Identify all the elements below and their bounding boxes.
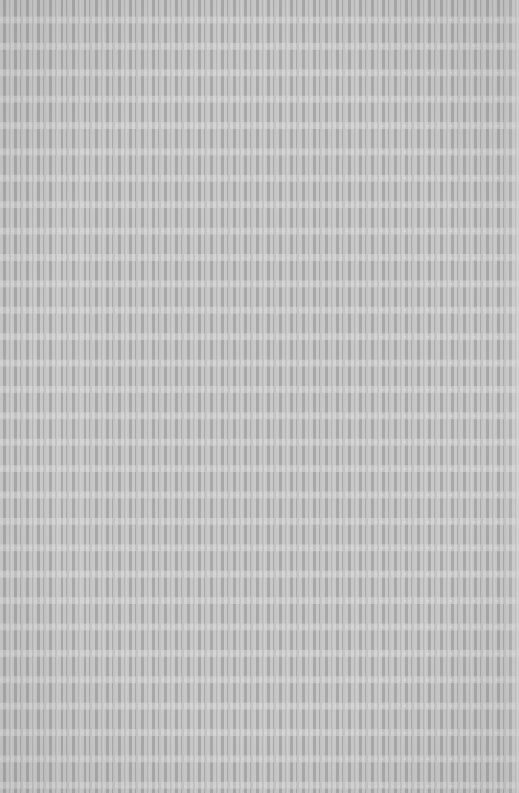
vignette-overlay <box>0 0 519 793</box>
